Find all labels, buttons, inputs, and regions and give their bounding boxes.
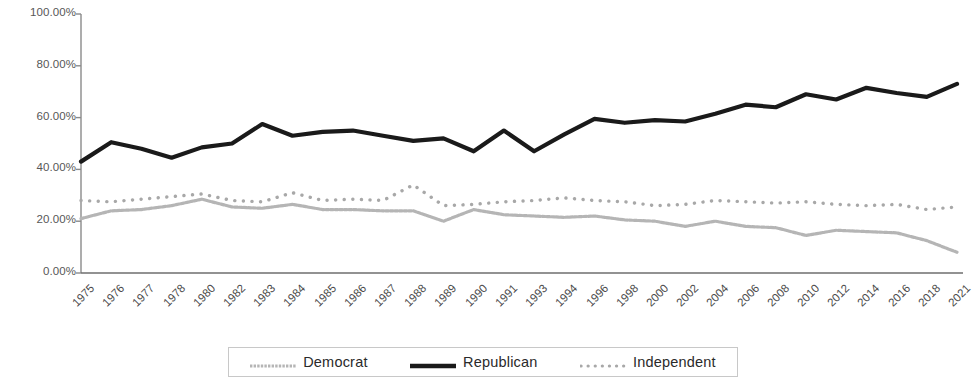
independent-swatch [580,357,626,367]
legend-item-republican: Republican [406,354,542,370]
legend-item-independent: Independent [576,354,720,370]
democrat-swatch [250,357,296,367]
legend-label-democrat: Democrat [303,354,367,370]
legend-label-republican: Republican [463,354,538,370]
legend-label-independent: Independent [633,354,716,370]
legend-item-democrat: Democrat [246,354,371,370]
chart-legend: Democrat Republican Independent [228,347,738,377]
republican-swatch [410,357,456,367]
